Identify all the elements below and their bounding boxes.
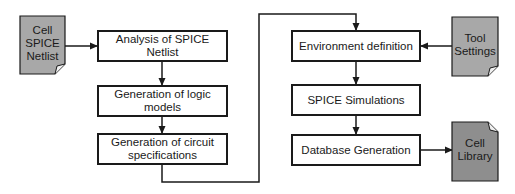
process-step-label: Generation of logic models [103,88,222,114]
process-step-sim: SPICE Simulations [291,84,421,116]
process-step-env: Environment definition [291,30,421,62]
document-label-library: Cell Library [452,122,498,177]
flow-diagram-canvas [0,0,515,194]
process-step-label: Environment definition [299,40,413,53]
document-label-netlist: Cell SPICE Netlist [20,16,65,70]
document-label-tool: Tool Settings [452,17,498,72]
process-step-label: Database Generation [301,144,410,157]
process-step-db: Database Generation [291,134,421,166]
process-step-label: SPICE Simulations [307,94,404,107]
process-step-label: Generation of circuit specifications [103,136,222,162]
process-step-logic: Generation of logic models [97,85,228,117]
process-step-specs: Generation of circuit specifications [97,133,228,165]
process-step-analysis: Analysis of SPICE Netlist [97,30,228,62]
process-step-label: Analysis of SPICE Netlist [103,33,222,59]
